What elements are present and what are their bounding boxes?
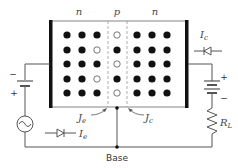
emitter-electron xyxy=(78,89,85,96)
base-node-bottom xyxy=(115,145,119,149)
collector-battery-minus: − xyxy=(220,93,228,103)
collector-electron xyxy=(148,60,155,67)
base-electron xyxy=(113,75,120,82)
emitter-electron xyxy=(63,60,70,67)
base-node-top xyxy=(115,106,119,110)
base-hole xyxy=(114,90,120,96)
emitter-electron xyxy=(63,46,70,53)
collector-electron xyxy=(133,60,140,67)
collector-electron xyxy=(163,60,170,67)
base-return-wire xyxy=(25,132,205,147)
base-label: Base xyxy=(106,153,128,163)
emitter-electron xyxy=(78,31,85,38)
ic-label: Ic xyxy=(199,29,208,42)
load-resistor-icon xyxy=(207,108,217,134)
base-electron xyxy=(113,46,120,53)
collector-electron xyxy=(163,31,170,38)
emitter-hole xyxy=(94,47,100,53)
emitter-electron xyxy=(63,89,70,96)
emitter-electron xyxy=(93,60,100,67)
collector-battery-plus: + xyxy=(220,72,228,82)
je-label: Je xyxy=(76,112,86,125)
emitter-electron xyxy=(63,75,70,82)
emitter-electron xyxy=(78,46,85,53)
collector-electron xyxy=(148,89,155,96)
emitter-battery-minus: − xyxy=(9,69,17,79)
emitter-electron xyxy=(93,31,100,38)
collector-electron xyxy=(148,75,155,82)
base-hole xyxy=(114,61,120,67)
collector-electron xyxy=(163,46,170,53)
emitter-electron xyxy=(78,75,85,82)
emitter-battery-plus: + xyxy=(10,88,18,98)
region-label-emitter: n xyxy=(76,6,82,17)
collector-electron xyxy=(148,46,155,53)
ie-direction-icon xyxy=(45,129,76,137)
emitter-electron xyxy=(63,31,70,38)
collector-electron xyxy=(133,46,140,53)
collector-electron xyxy=(133,31,140,38)
region-label-collector: n xyxy=(152,6,158,17)
emitter-hole xyxy=(94,76,100,82)
ie-label: Ie xyxy=(78,128,87,141)
region-label-base: p xyxy=(114,6,121,17)
transistor-diagram: n p n − + Ie Je Base Jc Ic xyxy=(0,0,238,168)
emitter-electron xyxy=(93,89,100,96)
emitter-wire-top xyxy=(25,64,50,80)
collector-electron xyxy=(133,75,140,82)
collector-electron xyxy=(163,75,170,82)
collector-contact xyxy=(185,20,189,108)
collector-electron xyxy=(163,89,170,96)
collector-electron xyxy=(148,31,155,38)
base-hole xyxy=(114,32,120,38)
rl-label: RL xyxy=(219,117,233,130)
jc-label: Jc xyxy=(143,112,153,125)
ic-direction-icon xyxy=(194,47,222,55)
collector-electron xyxy=(133,89,140,96)
emitter-electron xyxy=(78,60,85,67)
collector-wire-top xyxy=(188,64,212,81)
